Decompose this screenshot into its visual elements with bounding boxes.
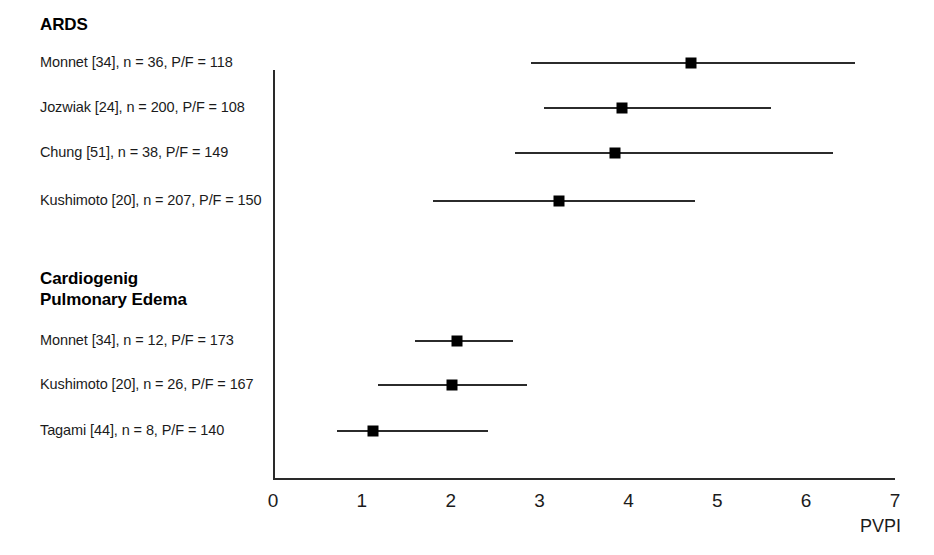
- y-axis-line: [273, 70, 275, 478]
- forest-plot-figure: 01234567PVPIARDSCardiogenig Pulmonary Ed…: [0, 0, 934, 555]
- x-axis-title: PVPI: [860, 516, 901, 537]
- point-estimate-marker: [554, 196, 565, 207]
- point-estimate-marker: [368, 426, 379, 437]
- confidence-interval-line: [544, 107, 771, 109]
- x-axis-tick-label: 2: [445, 490, 456, 512]
- study-row-label: Chung [51], n = 38, P/F = 149: [40, 143, 228, 161]
- point-estimate-marker: [617, 103, 628, 114]
- study-row-label: Kushimoto [20], n = 26, P/F = 167: [40, 375, 254, 393]
- x-axis-tick-label: 1: [357, 490, 368, 512]
- point-estimate-marker: [685, 58, 696, 69]
- group-header: Cardiogenig Pulmonary Edema: [40, 268, 187, 310]
- x-axis-line: [273, 478, 895, 480]
- group-header: ARDS: [40, 14, 88, 35]
- x-axis-tick-label: 6: [801, 490, 812, 512]
- confidence-interval-line: [337, 430, 488, 432]
- study-row-label: Tagami [44], n = 8, P/F = 140: [40, 421, 224, 439]
- study-row-label: Kushimoto [20], n = 207, P/F = 150: [40, 191, 262, 209]
- point-estimate-marker: [451, 336, 462, 347]
- study-row-label: Monnet [34], n = 12, P/F = 173: [40, 331, 234, 349]
- x-axis-tick-label: 5: [712, 490, 723, 512]
- point-estimate-marker: [447, 380, 458, 391]
- x-axis-tick-label: 4: [623, 490, 634, 512]
- study-row-label: Jozwiak [24], n = 200, P/F = 108: [40, 98, 245, 116]
- point-estimate-marker: [610, 148, 621, 159]
- study-row-label: Monnet [34], n = 36, P/F = 118: [40, 53, 233, 71]
- confidence-interval-line: [515, 152, 833, 154]
- x-axis-tick-label: 0: [268, 490, 279, 512]
- confidence-interval-line: [415, 340, 513, 342]
- x-axis-tick-label: 3: [534, 490, 545, 512]
- x-axis-tick-label: 7: [890, 490, 901, 512]
